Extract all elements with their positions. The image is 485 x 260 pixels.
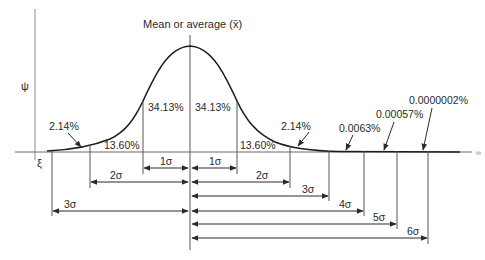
y-axis-label: ψ bbox=[21, 80, 29, 92]
span-label-left-2: 2σ bbox=[110, 169, 123, 181]
span-label-left-1: 1σ bbox=[160, 155, 173, 167]
span-label-right-5: 5σ bbox=[373, 211, 386, 223]
region-label-second-left: 13.60% bbox=[104, 139, 140, 151]
pointer-fifth-right bbox=[384, 122, 394, 150]
region-label-sixth-right: 0.0000002% bbox=[409, 94, 468, 106]
x-end-label: ∞ bbox=[476, 149, 481, 156]
mean-title: Mean or average (x̄) bbox=[143, 18, 242, 30]
region-label-third-left: 2.14% bbox=[49, 120, 79, 132]
pointer-third-right bbox=[298, 132, 309, 146]
region-label-fourth-right: 0.0063% bbox=[339, 122, 380, 134]
region-label-center-right: 34.13% bbox=[195, 101, 231, 113]
span-label-right-1: 1σ bbox=[209, 155, 222, 167]
region-label-fifth-right: 0.00057% bbox=[376, 108, 423, 120]
x-start-label: ξ bbox=[37, 157, 42, 169]
span-label-right-4: 4σ bbox=[339, 198, 352, 210]
pointer-sixth-right bbox=[423, 108, 432, 150]
bell-curve bbox=[47, 46, 460, 152]
pointer-third-left bbox=[68, 133, 81, 147]
region-label-second-right: 13.60% bbox=[240, 139, 276, 151]
region-label-center-left: 34.13% bbox=[148, 101, 184, 113]
span-label-right-6: 6σ bbox=[407, 225, 420, 237]
normal-distribution-diagram: ψ ξ ∞ Mean or average (x̄) 34.13% 34.13%… bbox=[0, 0, 485, 260]
span-label-right-3: 3σ bbox=[302, 183, 315, 195]
region-label-third-right: 2.14% bbox=[281, 120, 311, 132]
pointer-fourth-right bbox=[346, 135, 353, 150]
span-label-left-3: 3σ bbox=[64, 198, 77, 210]
span-label-right-2: 2σ bbox=[256, 169, 269, 181]
